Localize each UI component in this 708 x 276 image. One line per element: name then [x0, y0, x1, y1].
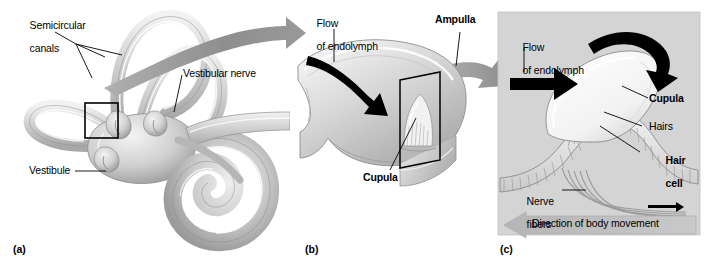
label-cupula-c: Cupula	[649, 93, 684, 105]
label-flow-of-endolymph-b: Flow of endolymph	[300, 6, 378, 64]
detail-box-cupula	[400, 72, 440, 168]
panel-tag-b: (b)	[305, 243, 318, 255]
label-flow-of-endolymph-c: Flow of endolymph	[506, 30, 584, 88]
panel-a-inner-ear: Semicircular canals Vestibular nerve Ves…	[0, 0, 290, 276]
vestibular-apparatus-figure: Semicircular canals Vestibular nerve Ves…	[0, 0, 708, 276]
label-semicircular-canals: Semicircular canals	[13, 8, 86, 66]
label-nerve-fibers: Nerve fibers	[510, 184, 554, 242]
label-direction-of-body-movement: Direction of body movement	[532, 218, 659, 230]
label-cupula-b: Cupula	[363, 172, 398, 184]
label-vestibule: Vestibule	[29, 165, 70, 177]
label-hairs: Hairs	[649, 121, 673, 133]
label-ampulla: Ampulla	[435, 14, 475, 26]
panel-c-cupula-detail: Flow of endolymph Cupula Hairs Hair cell…	[490, 0, 708, 276]
panel-tag-c: (c)	[500, 243, 513, 255]
label-hair-cell: Hair cell	[649, 143, 685, 201]
label-vestibular-nerve: Vestibular nerve	[183, 68, 256, 80]
panel-b-ampulla: Flow of endolymph Ampulla Cupula (b)	[280, 0, 500, 276]
panel-tag-a: (a)	[13, 243, 26, 255]
